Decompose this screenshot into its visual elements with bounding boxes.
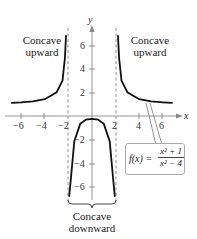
y-tick-label: 2 [80, 87, 85, 98]
y-tick-label: −2 [74, 134, 85, 145]
annotation-line: Concave [126, 34, 174, 46]
y-tick-label: −6 [74, 181, 85, 192]
y-tick-label: 6 [80, 40, 85, 51]
y-tick-label: 4 [80, 63, 85, 74]
x-tick-label: −2 [58, 120, 69, 131]
y-axis-arrow-icon [90, 25, 95, 32]
annotation-line: Concave [18, 34, 66, 46]
x-axis-label: x [184, 110, 188, 122]
annotation-concave-downward: Concave downward [62, 210, 122, 234]
x-tick-label: 2 [112, 120, 117, 131]
y-axis [89, 30, 95, 200]
formula-label: f(x) = x² + 1 x² − 4 [125, 143, 185, 175]
annotation-line: downward [62, 222, 122, 234]
x-tick-label: 6 [159, 120, 164, 131]
x-tick-label: −6 [13, 120, 24, 131]
formula-lhs: f(x) = [129, 153, 152, 164]
formula-denominator: x² − 4 [158, 158, 184, 168]
annotation-line: Concave [62, 210, 122, 222]
x-tick-label: −4 [36, 120, 47, 131]
x-axis-arrow-icon [176, 114, 183, 119]
annotation-concave-upward-right: Concave upward [126, 34, 174, 58]
formula-numerator: x² + 1 [158, 146, 184, 158]
annotation-concave-upward-left: Concave upward [18, 34, 66, 58]
annotation-line: upward [18, 46, 66, 58]
brace-concave-downward [68, 200, 116, 208]
y-axis-label: y [88, 14, 92, 26]
formula-fraction: x² + 1 x² − 4 [158, 146, 184, 168]
annotation-line: upward [126, 46, 174, 58]
x-tick-label: 4 [136, 120, 141, 131]
y-tick-label: −4 [74, 158, 85, 169]
